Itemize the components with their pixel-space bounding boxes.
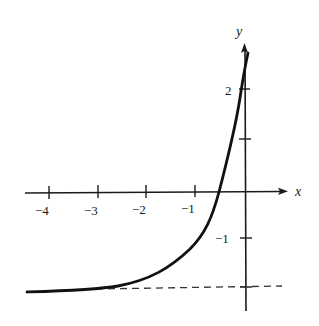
x-tick-label: −1 <box>181 201 195 216</box>
x-tick-label: −4 <box>35 203 49 218</box>
x-tick-label: −3 <box>84 203 98 218</box>
asymptote-line <box>96 286 282 289</box>
exponential-graph: x −4 −3 −2 −1 y 2 −1 <box>0 0 319 326</box>
x-axis: x −4 −3 −2 −1 <box>25 184 302 218</box>
x-tick-label: −2 <box>132 202 146 217</box>
x-axis-label: x <box>294 184 302 199</box>
exponential-curve <box>27 53 248 292</box>
y-axis-label: y <box>234 24 243 39</box>
y-tick-label: −1 <box>215 231 229 246</box>
y-tick-label: 2 <box>225 83 232 98</box>
